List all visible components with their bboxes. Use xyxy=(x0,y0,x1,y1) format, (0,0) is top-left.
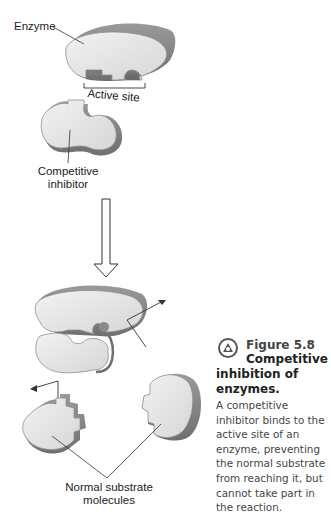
figure-title-rest: inhibition of enzymes. xyxy=(216,367,331,397)
enzyme-shape xyxy=(66,24,176,81)
normal-substrate-label-line1: Normal substrate xyxy=(54,481,164,494)
reaction-arrow-icon xyxy=(94,199,118,277)
competitive-inhibitor-label: Competitive inhibitor xyxy=(28,165,108,191)
figure-title-line1: Competitive xyxy=(246,352,328,367)
figure-swirl-icon xyxy=(216,336,240,360)
normal-substrate-label: Normal substrate molecules xyxy=(54,481,164,507)
arrowhead-left-icon xyxy=(30,385,37,392)
normal-substrate-label-line2: molecules xyxy=(54,494,164,507)
substrate-molecule-left xyxy=(23,394,86,454)
enzyme-inhibitor-complex xyxy=(35,286,147,373)
figure-number: Figure 5.8 xyxy=(246,338,328,352)
figure-caption-header: Figure 5.8 Competitive xyxy=(216,336,331,367)
competitive-inhibitor-label-line1: Competitive xyxy=(28,165,108,178)
figure-body-text: A competitive inhibitor binds to the act… xyxy=(216,398,331,515)
substrate-molecule-right xyxy=(142,374,201,441)
figure-caption: Figure 5.8 Competitive inhibition of enz… xyxy=(216,336,331,515)
enzyme-label: Enzyme xyxy=(14,20,56,33)
blocked-path-line-left xyxy=(34,381,58,402)
competitive-inhibitor-label-line2: inhibitor xyxy=(28,178,108,191)
enzyme-leader-line xyxy=(53,27,84,44)
competitive-inhibitor-shape xyxy=(41,100,122,155)
